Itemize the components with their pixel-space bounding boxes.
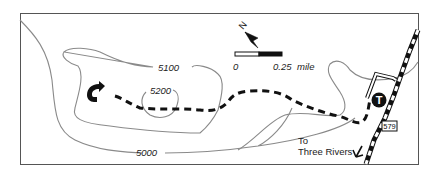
destination-label-line1: To — [298, 135, 308, 146]
contour-label-5200: 5200 — [150, 85, 172, 96]
svg-text:T: T — [376, 94, 383, 106]
scale-bar — [235, 52, 282, 56]
route-shield: 579 — [382, 121, 397, 131]
scale-unit-label: mile — [297, 61, 314, 72]
trail-map: 5000 5100 5200 N 0 0.25 mile T 579 To Th… — [0, 0, 439, 176]
scale-end-label: 0.25 — [273, 61, 292, 72]
trailhead-icon: T — [372, 93, 387, 108]
contour-label-5100: 5100 — [158, 62, 180, 73]
route-shield-label: 579 — [383, 122, 396, 131]
contour-label-5000: 5000 — [136, 147, 158, 158]
scale-start-label: 0 — [233, 61, 239, 72]
destination-label-line2: Three Rivers — [298, 146, 353, 157]
